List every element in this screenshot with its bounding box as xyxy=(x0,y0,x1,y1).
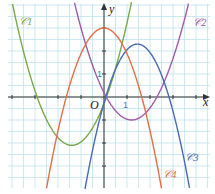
x-unit-tick-label: 1 xyxy=(123,100,128,110)
function-graph: x y O 1 1 𝒞1 𝒞2 𝒞3 𝒞4 xyxy=(0,0,215,194)
curve-label-c3: 𝒞3 xyxy=(185,151,199,163)
labels: x y O 1 1 𝒞1 𝒞2 𝒞3 𝒞4 xyxy=(19,2,209,180)
x-axis-label: x xyxy=(202,95,209,109)
axes xyxy=(8,3,210,188)
y-axis-arrow-icon xyxy=(101,3,107,10)
curves xyxy=(13,2,190,189)
curve-label-c1: 𝒞1 xyxy=(19,15,33,27)
y-axis-label: y xyxy=(108,2,115,16)
grid xyxy=(8,4,210,188)
y-unit-tick-label: 1 xyxy=(97,69,102,79)
origin-label: O xyxy=(90,98,99,112)
curve-label-c4: 𝒞4 xyxy=(163,168,177,180)
curve-label-c2: 𝒞2 xyxy=(193,16,207,28)
